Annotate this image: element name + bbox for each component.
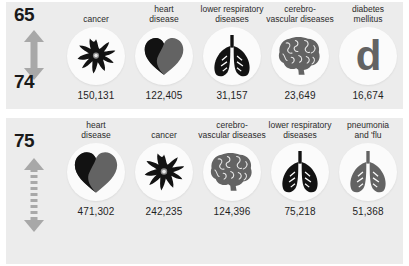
cause-item: heart disease 122,405: [130, 2, 198, 101]
cause-label: cerebro- vascular diseases: [194, 118, 270, 140]
cause-value: 31,157: [216, 90, 247, 101]
cause-item: cancer 242,235: [130, 118, 198, 217]
cause-item: cerebro- vascular diseases 124,396: [198, 118, 266, 217]
cause-item: diabetes mellitus d 16,674: [334, 2, 402, 101]
age-range-start: 75: [14, 130, 34, 152]
cause-value: 23,649: [284, 90, 315, 101]
age-band-65-74: 65 74 cancer 150,131: [6, 2, 403, 109]
cause-label: pneumonia and 'flu: [330, 118, 406, 140]
age-axis-65-74: 65 74: [6, 2, 62, 109]
cause-label: heart disease: [126, 2, 202, 24]
causes-of-death-infographic: 65 74 cancer 150,131: [0, 0, 409, 266]
brain-icon: [203, 143, 261, 201]
arrow-shaft-dashed: [31, 169, 38, 221]
cause-label: cancer: [126, 118, 202, 140]
cancer-cell-icon: [135, 143, 193, 201]
cause-label: heart disease: [58, 118, 134, 140]
cause-item: lower respiratory diseases 31,157: [198, 2, 266, 101]
cause-item: cerebro- vascular diseases 23,649: [266, 2, 334, 101]
age-axis-75-plus: 75: [6, 118, 62, 264]
cause-value: 150,131: [78, 90, 115, 101]
cause-value: 75,218: [284, 206, 315, 217]
cause-item: lower respiratory diseases 75,218: [266, 118, 334, 217]
cause-list-75-plus: heart disease 471,302 cancer: [62, 118, 395, 264]
age-range-end: 74: [14, 71, 34, 93]
cause-item: pneumonia and 'flu 51,368: [334, 118, 402, 217]
heart-icon: [67, 143, 125, 201]
lungs-icon: [271, 143, 329, 201]
age-range-start: 65: [14, 4, 34, 26]
cause-value: 124,396: [214, 206, 251, 217]
arrow-down-head-icon: [24, 220, 44, 232]
arrow-shaft: [31, 41, 38, 69]
brain-icon: [271, 27, 329, 85]
cause-value: 242,235: [146, 206, 183, 217]
cause-list-65-74: cancer 150,131 heart disease: [62, 2, 395, 109]
cause-value: 51,368: [352, 206, 383, 217]
age-range-arrow-open: [22, 158, 46, 232]
cause-label: diabetes mellitus: [330, 2, 406, 24]
lungs-icon: [203, 27, 261, 85]
diabetes-letter-glyph: d: [356, 35, 381, 77]
cause-value: 16,674: [352, 90, 383, 101]
diabetes-d-icon: d: [339, 27, 397, 85]
heart-icon: [135, 27, 193, 85]
cause-label: lower respiratory diseases: [194, 2, 270, 24]
age-band-75-plus: 75 heart disease 471,302: [6, 118, 403, 264]
cause-value: 122,405: [146, 90, 183, 101]
cause-label: cerebro- vascular diseases: [262, 2, 338, 24]
cause-item: cancer 150,131: [62, 2, 130, 101]
cause-value: 471,302: [78, 206, 115, 217]
cause-label: cancer: [58, 2, 134, 24]
cause-label: lower respiratory diseases: [262, 118, 338, 140]
lungs-gray-icon: [339, 143, 397, 201]
cause-item: heart disease 471,302: [62, 118, 130, 217]
cancer-cell-icon: [67, 27, 125, 85]
